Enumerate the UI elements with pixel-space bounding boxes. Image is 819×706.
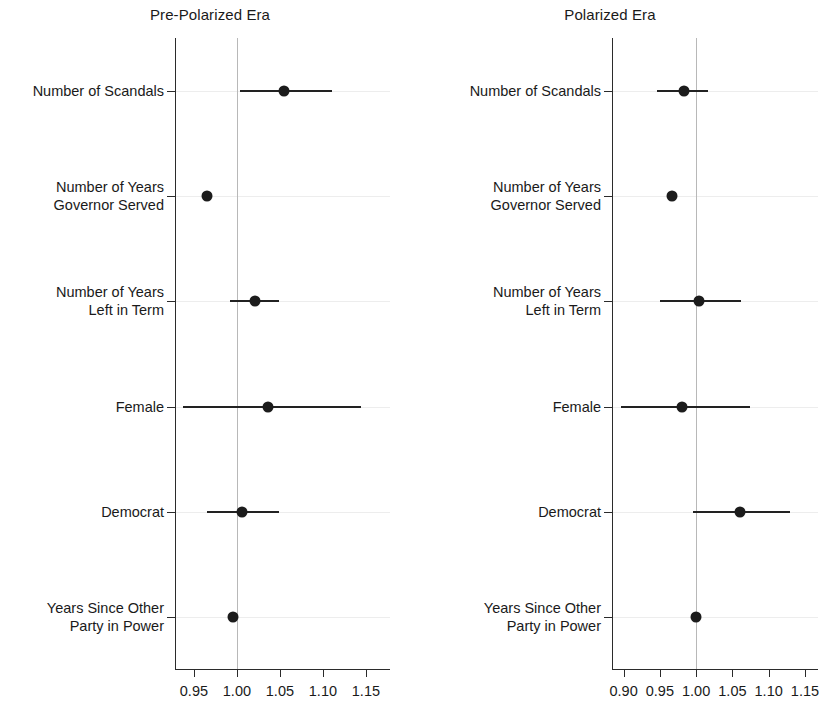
gridline — [175, 301, 390, 302]
x-axis-tick — [769, 670, 770, 677]
y-axis-label-line: Governor Served — [491, 196, 601, 214]
y-axis-category-label: Years Since OtherParty in Power — [47, 599, 164, 635]
estimate-point — [691, 612, 702, 623]
gridline — [612, 91, 818, 92]
y-axis-tick — [604, 196, 612, 197]
x-axis-tick — [237, 670, 238, 677]
gridline — [612, 196, 818, 197]
x-axis-tick — [696, 670, 697, 677]
estimate-point — [279, 85, 290, 96]
y-axis-tick — [604, 617, 612, 618]
y-axis-label-line: Number of Years — [491, 178, 601, 196]
estimate-point — [201, 191, 212, 202]
plot-area: 0.900.951.001.051.101.15Number of Scanda… — [612, 38, 818, 670]
x-axis-tick — [366, 670, 367, 677]
y-axis-tick — [604, 407, 612, 408]
panel-pre-polarized-era: Pre-Polarized Era 0.951.001.051.101.15Nu… — [0, 0, 410, 706]
y-axis-label-line: Number of Scandals — [470, 82, 601, 100]
y-axis-label-line: Democrat — [101, 503, 164, 521]
y-axis-tick — [167, 91, 175, 92]
reference-line-at-one — [237, 38, 238, 670]
y-axis-label-line: Left in Term — [56, 301, 164, 319]
estimate-point — [262, 401, 273, 412]
y-axis-line — [175, 38, 176, 670]
y-axis-label-line: Number of Years — [56, 283, 164, 301]
y-axis-label-line: Female — [553, 398, 601, 416]
x-axis-tick — [280, 670, 281, 677]
estimate-point — [735, 507, 746, 518]
y-axis-category-label: Number of Scandals — [33, 82, 164, 100]
x-axis-tick-label: 1.15 — [352, 683, 380, 699]
estimate-point — [237, 507, 248, 518]
x-axis-tick — [732, 670, 733, 677]
x-axis-tick-label: 1.10 — [755, 683, 783, 699]
estimate-point — [249, 296, 260, 307]
y-axis-category-label: Democrat — [101, 503, 164, 521]
x-axis-tick-label: 1.00 — [682, 683, 710, 699]
x-axis-tick-label: 1.15 — [791, 683, 819, 699]
y-axis-category-label: Female — [116, 398, 164, 416]
y-axis-tick — [167, 301, 175, 302]
gridline — [612, 617, 818, 618]
y-axis-category-label: Number of YearsGovernor Served — [491, 178, 601, 214]
y-axis-label-line: Party in Power — [484, 617, 601, 635]
x-axis-tick-label: 0.95 — [646, 683, 674, 699]
x-axis-line — [612, 669, 818, 670]
x-axis-tick-label: 1.05 — [718, 683, 746, 699]
y-axis-label-line: Number of Years — [54, 178, 164, 196]
x-axis-line — [175, 669, 390, 670]
y-axis-label-line: Years Since Other — [484, 599, 601, 617]
x-axis-tick — [805, 670, 806, 677]
y-axis-tick — [604, 91, 612, 92]
y-axis-label-line: Number of Scandals — [33, 82, 164, 100]
y-axis-label-line: Democrat — [538, 503, 601, 521]
y-axis-category-label: Number of YearsGovernor Served — [54, 178, 164, 214]
y-axis-label-line: Party in Power — [47, 617, 164, 635]
y-axis-category-label: Number of Scandals — [470, 82, 601, 100]
x-axis-tick-label: 0.95 — [180, 683, 208, 699]
x-axis-tick-label: 1.05 — [266, 683, 294, 699]
panel-title: Pre-Polarized Era — [30, 6, 390, 23]
estimate-point — [667, 191, 678, 202]
y-axis-label-line: Number of Years — [493, 283, 601, 301]
x-axis-tick-label: 1.00 — [223, 683, 251, 699]
y-axis-category-label: Female — [553, 398, 601, 416]
x-axis-tick-label: 1.10 — [309, 683, 337, 699]
y-axis-tick — [604, 512, 612, 513]
x-axis-tick — [323, 670, 324, 677]
x-axis-tick — [624, 670, 625, 677]
y-axis-tick — [167, 512, 175, 513]
y-axis-label-line: Years Since Other — [47, 599, 164, 617]
gridline — [175, 617, 390, 618]
x-axis-tick — [194, 670, 195, 677]
plot-area: 0.951.001.051.101.15Number of ScandalsNu… — [175, 38, 390, 670]
y-axis-category-label: Number of YearsLeft in Term — [493, 283, 601, 319]
x-axis-tick — [660, 670, 661, 677]
y-axis-tick — [167, 617, 175, 618]
y-axis-category-label: Number of YearsLeft in Term — [56, 283, 164, 319]
y-axis-line — [612, 38, 613, 670]
y-axis-tick — [167, 196, 175, 197]
y-axis-label-line: Governor Served — [54, 196, 164, 214]
y-axis-label-line: Female — [116, 398, 164, 416]
estimate-point — [694, 296, 705, 307]
x-axis-tick-label: 0.90 — [609, 683, 637, 699]
estimate-point — [228, 612, 239, 623]
y-axis-tick — [167, 407, 175, 408]
estimate-point — [676, 401, 687, 412]
y-axis-category-label: Democrat — [538, 503, 601, 521]
estimate-point — [678, 85, 689, 96]
y-axis-tick — [604, 301, 612, 302]
y-axis-label-line: Left in Term — [493, 301, 601, 319]
reference-line-at-one — [696, 38, 697, 670]
panel-polarized-era: Polarized Era 0.900.951.001.051.101.15Nu… — [408, 0, 818, 706]
y-axis-category-label: Years Since OtherParty in Power — [484, 599, 601, 635]
panel-title: Polarized Era — [430, 6, 790, 23]
